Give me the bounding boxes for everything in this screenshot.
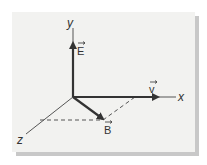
x-axis-label: x (177, 90, 185, 104)
b-vector-label: B (104, 124, 111, 136)
dashed-projection-x (103, 97, 135, 120)
z-axis-label: z (16, 133, 23, 147)
z-axis (26, 97, 73, 134)
y-axis-label: y (66, 16, 74, 30)
b-vector-arrow (73, 97, 103, 119)
vector-diagram: y x z E v B (0, 0, 207, 165)
v-vector-label: v (149, 83, 155, 95)
e-vector-label: E (77, 45, 84, 57)
